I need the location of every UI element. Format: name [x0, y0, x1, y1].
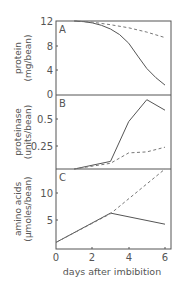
panel-a-y-label: protein (mg/bean) — [13, 34, 33, 81]
tick-label: 2 — [89, 252, 95, 263]
panel-c-label: C — [59, 172, 66, 183]
svg-text:protein: protein — [13, 42, 23, 74]
x-axis: 0 2 4 6 days after imbibition — [53, 247, 168, 277]
svg-text:(mg/bean): (mg/bean) — [23, 34, 33, 81]
plot-frame — [56, 21, 171, 249]
panel-a-solid-line — [74, 21, 165, 85]
figure: A B C 12 8 4 0 protein (mg/bean) 0.5 0.2… — [0, 0, 181, 288]
tick-label: 0 — [53, 252, 59, 263]
panel-b-y-label: proteinase (units/bean) — [13, 105, 33, 160]
panel-c-solid-line — [56, 213, 165, 242]
tick-label: 12 — [40, 16, 53, 27]
panel-c-y-axis: 10 5 — [40, 188, 58, 226]
tick-label: 0.25 — [31, 141, 53, 152]
panel-a-label: A — [59, 24, 66, 35]
tick-label: 10 — [40, 188, 53, 199]
tick-label: 4 — [126, 252, 132, 263]
data-lines — [56, 21, 165, 242]
x-axis-label: days after imbibition — [63, 266, 161, 277]
svg-text:(µmoles/bean): (µmoles/bean) — [23, 176, 33, 241]
panel-a-y-axis: 12 8 4 0 — [40, 16, 58, 100]
tick-label: 6 — [162, 252, 168, 263]
panel-c-dashed-line — [56, 169, 165, 242]
svg-text:(units/bean): (units/bean) — [23, 105, 33, 160]
tick-label: 5 — [47, 215, 53, 226]
tick-label: 4 — [47, 65, 53, 76]
svg-text:amino acids: amino acids — [13, 182, 23, 237]
tick-label: 0 — [47, 89, 53, 100]
panel-c-y-label: amino acids (µmoles/bean) — [13, 176, 33, 241]
panel-b-y-axis: 0.5 0.25 — [31, 114, 58, 152]
tick-label: 0.5 — [37, 114, 53, 125]
tick-label: 8 — [47, 41, 53, 52]
panel-b-label: B — [59, 98, 66, 109]
svg-text:proteinase: proteinase — [13, 108, 23, 156]
